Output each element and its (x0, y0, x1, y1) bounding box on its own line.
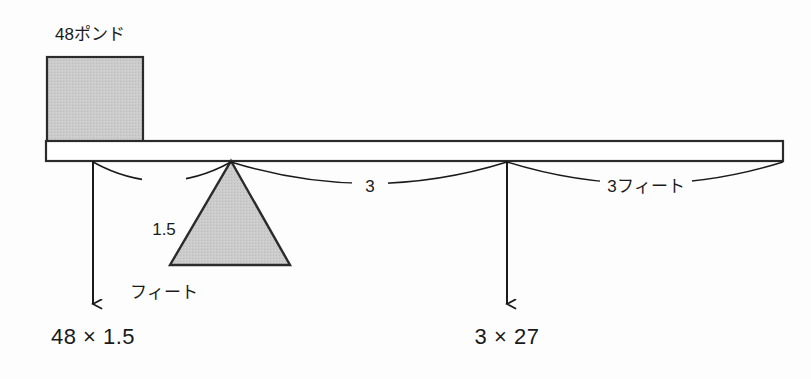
dimension-label-middle: 3 (340, 178, 400, 196)
dimension-label-left: 1.5 フィート (118, 176, 210, 346)
weight-label: 48ポンド (55, 26, 125, 44)
lever-diagram-canvas: 48ポンド 1.5 フィート 3 3フィート 48 × 1.5 3 × 27 (0, 0, 811, 379)
product-label-left: 48 × 1.5 (23, 325, 163, 348)
product-label-right: 3 × 27 (447, 325, 567, 348)
dimension-label-right: 3フィート (596, 178, 696, 196)
dimension-label-left-line1: 1.5 (118, 219, 210, 240)
lever-beam (46, 141, 783, 161)
dimension-label-left-line2: フィート (118, 282, 210, 303)
weight-block (47, 57, 143, 142)
